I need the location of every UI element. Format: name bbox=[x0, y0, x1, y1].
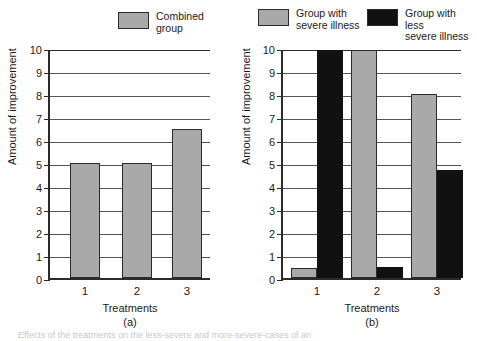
legend-swatch-combined-group bbox=[118, 12, 149, 29]
chart-panel-b: Group with severe illness Group with les… bbox=[237, 0, 477, 341]
y-tick-label-b-8: 8 bbox=[269, 90, 275, 102]
y-tick-label-8: 8 bbox=[36, 90, 42, 102]
bar-a-treatment-2 bbox=[122, 163, 152, 278]
y-axis-title-a: Amount of improvement bbox=[6, 48, 18, 165]
bar-b-t2-severe bbox=[351, 50, 377, 278]
y-tick-4 bbox=[44, 188, 50, 189]
legend-label-group-severe-illness: Group with severe illness bbox=[296, 8, 360, 31]
bar-b-t3-less-severe bbox=[437, 170, 463, 278]
bar-a-treatment-3 bbox=[172, 129, 202, 279]
y-tick-label-b-5: 5 bbox=[269, 159, 275, 171]
y-tick-b-10 bbox=[277, 50, 283, 51]
y-tick-9 bbox=[44, 73, 50, 74]
x-tick-label-b-1: 1 bbox=[314, 285, 320, 297]
y-tick-b-4 bbox=[277, 188, 283, 189]
y-axis-title-b: Amount of improvement bbox=[240, 48, 252, 165]
gridline-7 bbox=[50, 119, 210, 120]
y-tick-b-5 bbox=[277, 165, 283, 166]
bar-b-t3-severe bbox=[411, 94, 437, 278]
y-tick-label-b-7: 7 bbox=[269, 113, 275, 125]
y-tick-10 bbox=[44, 50, 50, 51]
y-tick-label-b-4: 4 bbox=[269, 182, 275, 194]
bar-b-t1-less-severe bbox=[317, 50, 343, 278]
y-tick-b-3 bbox=[277, 211, 283, 212]
y-tick-label-9: 9 bbox=[36, 67, 42, 79]
x-axis-title-a: Treatments bbox=[50, 302, 210, 314]
y-tick-b-0 bbox=[277, 280, 283, 281]
x-tick-label-a-3: 3 bbox=[184, 285, 190, 297]
bar-b-t1-severe bbox=[291, 268, 317, 278]
y-tick-label-3: 3 bbox=[36, 205, 42, 217]
y-tick-b-7 bbox=[277, 119, 283, 120]
y-tick-label-b-0: 0 bbox=[269, 274, 275, 286]
y-tick-1 bbox=[44, 257, 50, 258]
bar-a-treatment-1 bbox=[70, 163, 100, 278]
y-tick-3 bbox=[44, 211, 50, 212]
y-tick-7 bbox=[44, 119, 50, 120]
y-tick-label-6: 6 bbox=[36, 136, 42, 148]
y-tick-label-b-9: 9 bbox=[269, 67, 275, 79]
y-tick-label-b-6: 6 bbox=[269, 136, 275, 148]
y-tick-8 bbox=[44, 96, 50, 97]
gridline-8 bbox=[50, 96, 210, 97]
legend-label-combined-group: Combined group bbox=[156, 11, 204, 34]
y-tick-label-b-2: 2 bbox=[269, 228, 275, 240]
y-tick-b-6 bbox=[277, 142, 283, 143]
x-axis-title-b: Treatments bbox=[283, 302, 461, 314]
plot-area-b: 10 9 8 7 6 5 4 3 2 1 0 1 2 3 Treatments … bbox=[281, 50, 461, 280]
y-tick-label-b-10: 10 bbox=[263, 44, 275, 56]
y-tick-label-b-1: 1 bbox=[269, 251, 275, 263]
figure-caption: Effects of the treatments on the less-se… bbox=[18, 330, 463, 341]
bar-b-t2-less-severe bbox=[377, 267, 403, 279]
legend-panel-b-severe: Group with severe illness bbox=[258, 8, 360, 31]
legend-swatch-group-less-severe-illness bbox=[367, 9, 398, 26]
panel-caption-a: (a) bbox=[50, 316, 210, 328]
y-tick-b-9 bbox=[277, 73, 283, 74]
x-tick-label-a-1: 1 bbox=[82, 285, 88, 297]
gridline-10 bbox=[50, 50, 210, 51]
x-tick-label-a-2: 2 bbox=[134, 285, 140, 297]
y-tick-label-4: 4 bbox=[36, 182, 42, 194]
x-tick-label-b-3: 3 bbox=[434, 285, 440, 297]
gridline-9 bbox=[50, 73, 210, 74]
y-tick-b-2 bbox=[277, 234, 283, 235]
y-tick-label-b-3: 3 bbox=[269, 205, 275, 217]
figure-two-bar-charts: Combined group Amount of improvement bbox=[0, 0, 477, 341]
y-tick-label-2: 2 bbox=[36, 228, 42, 240]
y-tick-label-7: 7 bbox=[36, 113, 42, 125]
y-tick-5 bbox=[44, 165, 50, 166]
chart-panel-a: Combined group Amount of improvement bbox=[0, 0, 240, 341]
y-tick-2 bbox=[44, 234, 50, 235]
y-tick-0 bbox=[44, 280, 50, 281]
y-tick-label-0: 0 bbox=[36, 274, 42, 286]
y-tick-label-1: 1 bbox=[36, 251, 42, 263]
legend-swatch-group-severe-illness bbox=[258, 9, 289, 26]
y-tick-b-8 bbox=[277, 96, 283, 97]
y-tick-label-10: 10 bbox=[30, 44, 42, 56]
legend-panel-b-less-severe: Group with less severe illness bbox=[367, 8, 477, 43]
plot-area-a: 10 9 8 7 6 5 4 3 2 1 0 1 2 3 Treatments … bbox=[48, 50, 210, 280]
y-tick-6 bbox=[44, 142, 50, 143]
x-tick-label-b-2: 2 bbox=[374, 285, 380, 297]
panel-caption-b: (b) bbox=[283, 316, 461, 328]
legend-panel-a: Combined group bbox=[118, 11, 204, 34]
y-tick-label-5: 5 bbox=[36, 159, 42, 171]
legend-label-group-less-severe-illness: Group with less severe illness bbox=[405, 8, 477, 43]
y-tick-b-1 bbox=[277, 257, 283, 258]
